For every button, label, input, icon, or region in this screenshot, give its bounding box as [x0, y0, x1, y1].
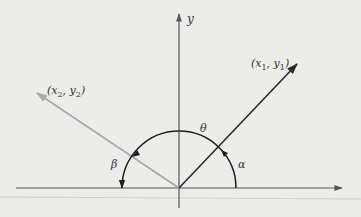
page-rule-line	[0, 197, 361, 199]
alpha-label: α	[238, 158, 246, 171]
vector-1-label: (x1, y1)	[251, 57, 289, 72]
theta-label: θ	[200, 122, 207, 135]
vector-2	[37, 93, 179, 188]
beta-label: β	[110, 158, 117, 171]
vector-2-label: (x2, y2)	[47, 84, 85, 99]
y-axis-label: y	[186, 12, 194, 26]
vector-diagram: y (x1, y1) (x2, y2) θ α β	[0, 0, 361, 217]
